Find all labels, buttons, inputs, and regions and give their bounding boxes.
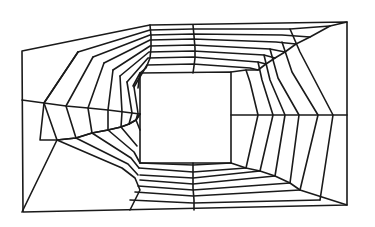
left-band	[22, 52, 140, 212]
inner-hole	[140, 72, 231, 163]
mesh-diagram	[0, 0, 375, 227]
bottom-band	[57, 120, 347, 210]
